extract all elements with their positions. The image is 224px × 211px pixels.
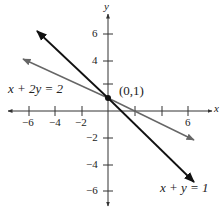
y-tick-label-4: 4 bbox=[92, 54, 98, 66]
intersection-label: (0,1) bbox=[119, 83, 144, 99]
x-axis-label: x bbox=[214, 102, 219, 114]
y-tick-label-neg6: −6 bbox=[86, 184, 98, 196]
y-tick-label-neg4: −4 bbox=[86, 158, 98, 170]
y-tick-label-neg2: −2 bbox=[86, 131, 98, 143]
x-tick-label-6: 6 bbox=[185, 116, 191, 128]
line-x-plus-y-eq-1 bbox=[37, 31, 194, 182]
equation-label-x-plus-y-eq-1: x + y = 1 bbox=[160, 180, 209, 196]
intersection-point bbox=[105, 95, 111, 101]
x-tick-label-neg4: −4 bbox=[49, 116, 61, 128]
x-axis bbox=[8, 106, 212, 116]
y-axis bbox=[103, 14, 113, 206]
y-axis-label: y bbox=[104, 0, 109, 12]
y-tick-label-6: 6 bbox=[92, 27, 98, 39]
equation-label-x-plus-2y-eq-2: x + 2y = 2 bbox=[8, 81, 63, 97]
x-tick-label-neg6: −6 bbox=[22, 116, 34, 128]
x-tick-label-neg2: −2 bbox=[75, 116, 87, 128]
